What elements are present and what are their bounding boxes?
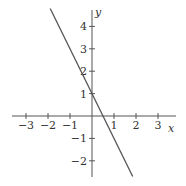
x-tick-label: 1 [111,119,118,132]
x-axis-label: x [168,122,175,135]
plot-lines [50,8,133,176]
data-line [50,8,133,176]
x-tick-label: 3 [155,119,162,132]
y-tick-label: 4 [80,20,87,33]
x-tick-label: −3 [18,119,34,132]
ticks: −3−2−1123−2−11234 [18,20,162,167]
x-tick-label: −1 [62,119,78,132]
x-tick-label: −2 [40,119,56,132]
y-axis-label: y [94,6,102,19]
x-tick-label: 2 [133,119,140,132]
y-tick-label: 3 [80,43,87,56]
line-chart: −3−2−1123−2−11234 x y [0,0,186,186]
y-tick-label: −1 [71,132,87,145]
y-tick-label: −2 [71,155,87,168]
y-tick-label: 1 [80,88,87,101]
